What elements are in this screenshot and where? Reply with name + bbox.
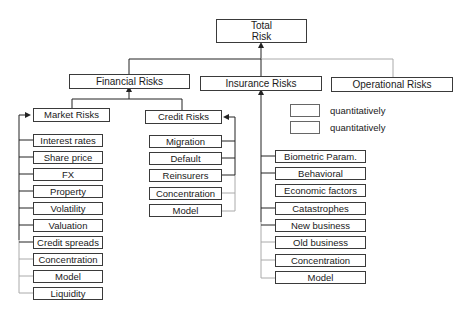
financial-risks-node: Financial Risks bbox=[69, 74, 190, 89]
insurance-item: Catastrophes bbox=[275, 202, 366, 215]
insurance-item: Behavioral bbox=[275, 167, 366, 180]
total-risk-line2: Risk bbox=[252, 31, 271, 42]
market-item: Valuation bbox=[33, 219, 103, 232]
credit-item: Model bbox=[149, 204, 222, 217]
insurance-item: Old business bbox=[275, 236, 366, 249]
credit-item: Default bbox=[149, 152, 222, 165]
market-item: Model bbox=[33, 270, 103, 283]
credit-item: Migration bbox=[149, 135, 222, 148]
insurance-risks-node: Insurance Risks bbox=[200, 76, 322, 91]
operational-risks-node: Operational Risks bbox=[331, 77, 453, 92]
insurance-item: Economic factors bbox=[275, 184, 366, 197]
market-item: Volatility bbox=[33, 202, 103, 215]
credit-item: Reinsurers bbox=[149, 169, 222, 182]
market-item: Concentration bbox=[33, 253, 103, 266]
market-item: Property bbox=[33, 185, 103, 198]
market-risks-node: Market Risks bbox=[33, 108, 110, 122]
market-item: Share price bbox=[33, 151, 103, 164]
legend-label-1: quantitatively bbox=[330, 105, 385, 116]
insurance-item: New business bbox=[275, 219, 366, 232]
total-risk-node: Total Risk bbox=[216, 19, 307, 43]
insurance-item: Model bbox=[275, 271, 366, 284]
risk-diagram: Total Risk Financial Risks Insurance Ris… bbox=[0, 0, 470, 315]
legend-swatch-qualitative bbox=[290, 121, 320, 134]
total-risk-line1: Total bbox=[251, 20, 272, 31]
legend-swatch-quantitative bbox=[290, 104, 320, 117]
market-item: Credit spreads bbox=[33, 236, 103, 249]
market-item: FX bbox=[33, 168, 103, 181]
insurance-item: Concentration bbox=[275, 254, 366, 267]
insurance-item: Biometric Param. bbox=[275, 150, 366, 163]
market-item: Interest rates bbox=[33, 134, 103, 147]
market-item: Liquidity bbox=[33, 287, 103, 300]
credit-item: Concentration bbox=[149, 187, 222, 200]
legend-label-2: quantitatively bbox=[330, 122, 385, 133]
credit-risks-node: Credit Risks bbox=[145, 110, 222, 124]
